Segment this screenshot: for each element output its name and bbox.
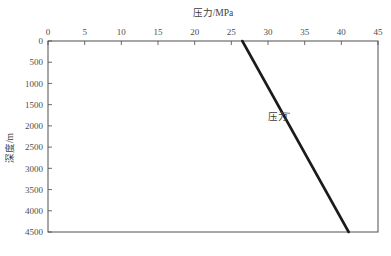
annotation-group: 压力 — [268, 111, 290, 122]
x-tick-label-45: 45 — [374, 27, 384, 37]
x-tick-label-35: 35 — [300, 27, 310, 37]
x-tick-label-10: 10 — [117, 27, 127, 37]
y-tick-label-3500: 3500 — [25, 185, 44, 195]
x-axis-title: 压力/MPa — [193, 7, 234, 18]
y-tick-label-0: 0 — [39, 36, 44, 46]
y-tick-label-2000: 2000 — [25, 121, 44, 131]
x-tick-label-30: 30 — [264, 27, 274, 37]
x-tick-label-5: 5 — [82, 27, 87, 37]
x-tick-label-15: 15 — [154, 27, 164, 37]
pressure-depth-figure: 压力/MPa 深度/m 051015202530354045 050010001… — [0, 0, 391, 256]
y-tick-label-4000: 4000 — [25, 206, 44, 216]
pressure-depth-chart: 压力/MPa 深度/m 051015202530354045 050010001… — [0, 0, 391, 256]
y-axis-title: 深度/m — [4, 132, 15, 163]
y-tick-label-1000: 1000 — [25, 79, 44, 89]
y-tick-label-2500: 2500 — [25, 142, 44, 152]
y-tick-label-500: 500 — [30, 57, 44, 67]
x-tick-label-25: 25 — [227, 27, 237, 37]
x-tick-label-40: 40 — [337, 27, 347, 37]
annotation-label-pressure: 压力 — [268, 111, 288, 122]
y-tick-label-4500: 4500 — [25, 227, 44, 237]
y-tick-label-3000: 3000 — [25, 164, 44, 174]
x-tick-label-20: 20 — [190, 27, 200, 37]
x-axis-tick-labels: 051015202530354045 — [46, 27, 383, 37]
plot-background — [48, 41, 378, 232]
y-tick-label-1500: 1500 — [25, 100, 44, 110]
y-axis-tick-labels: 050010001500200025003000350040004500 — [25, 36, 44, 237]
x-tick-label-0: 0 — [46, 27, 51, 37]
